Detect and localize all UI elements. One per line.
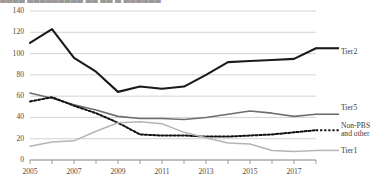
- y-axis-tick-40: 40: [2, 112, 24, 121]
- x-axis-tick-2017: 2017: [279, 167, 309, 176]
- series-label-non-pbs-line2: and other: [341, 130, 369, 138]
- series-path-tier1: [30, 122, 316, 152]
- x-axis-tick-2009: 2009: [103, 167, 133, 176]
- y-axis-tick-120: 120: [2, 27, 24, 36]
- plot-area: [0, 0, 381, 184]
- series-label-tier1: Tier1: [341, 147, 357, 155]
- y-axis-tick-80: 80: [2, 70, 24, 79]
- series-label-tier2: Tier2: [341, 48, 357, 56]
- x-axis-tick-2015: 2015: [235, 167, 265, 176]
- y-axis-tick-0: 0: [2, 155, 24, 164]
- series-path-tier2: [30, 29, 316, 92]
- gridlines: [30, 11, 316, 160]
- y-axis-tick-60: 60: [2, 91, 24, 100]
- x-axis-tick-2005: 2005: [15, 167, 45, 176]
- line-chart: █▄█▄ ▄█▄█▄█▄█▄ ▄█ ▄█ ▄ ▄█▄█▄█ 0204060801…: [0, 0, 381, 184]
- y-axis-tick-140: 140: [2, 6, 24, 15]
- series-label-tier5: Tier5: [341, 104, 357, 112]
- x-axis-tick-2013: 2013: [191, 167, 221, 176]
- x-axis-ticks: [30, 160, 316, 164]
- x-axis-tick-2011: 2011: [147, 167, 177, 176]
- y-axis-tick-100: 100: [2, 49, 24, 58]
- series-path-non-pbs-and-other: [30, 97, 316, 136]
- series-paths: [30, 29, 339, 151]
- x-axis-tick-2007: 2007: [59, 167, 89, 176]
- y-axis-tick-20: 20: [2, 134, 24, 143]
